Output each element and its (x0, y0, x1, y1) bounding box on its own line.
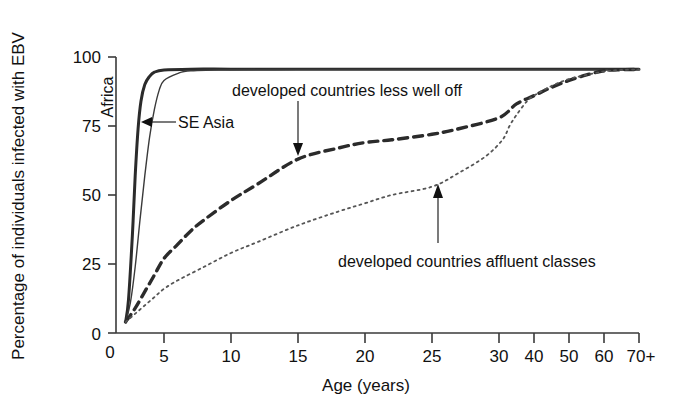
series-label-se-asia: SE Asia (178, 114, 234, 131)
x-tick-label: 10 (222, 347, 241, 366)
x-tick-label: 40 (525, 347, 544, 366)
x-tick-label: 25 (423, 347, 442, 366)
series-label-less-well-off: developed countries less well off (232, 82, 463, 99)
y-tick-label: 75 (82, 117, 101, 136)
x-tick-label: 70+ (627, 347, 656, 366)
y-tick-label: 25 (82, 255, 101, 274)
y-tick-label: 0 (92, 325, 101, 344)
x-tick-label: 30 (490, 347, 509, 366)
epidemiology-line-chart: 100 75 50 25 0 0 5 10 15 20 25 3 (0, 0, 685, 414)
x-tick-label: 20 (356, 347, 375, 366)
x-tick-label: 50 (560, 347, 579, 366)
x-tick-label: 0 (105, 343, 114, 362)
x-tick-label: 60 (595, 347, 614, 366)
x-tick-label: 15 (289, 347, 308, 366)
x-axis-title: Age (years) (322, 376, 410, 395)
y-tick-label: 50 (82, 186, 101, 205)
series-label-affluent-classes: developed countries affluent classes (338, 253, 596, 270)
chart-background (0, 0, 685, 414)
chart-figure: 100 75 50 25 0 0 5 10 15 20 25 3 (0, 0, 685, 414)
y-axis-title: Percentage of individuals infected with … (9, 31, 28, 360)
series-label-africa: Africa (99, 76, 116, 117)
x-tick-label: 5 (159, 347, 168, 366)
y-tick-label: 100 (73, 48, 101, 67)
